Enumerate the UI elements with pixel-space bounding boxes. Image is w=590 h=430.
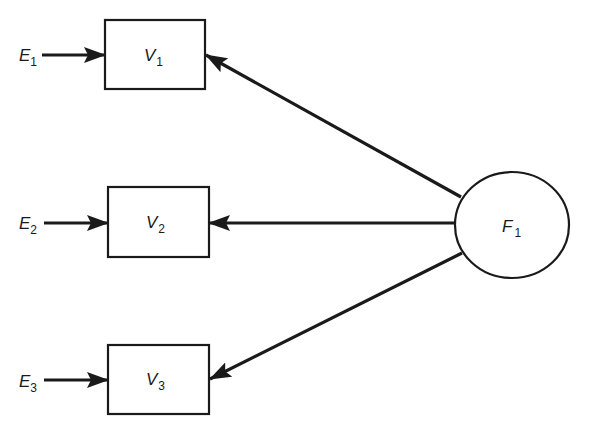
e3-label: E3 [19, 372, 37, 395]
node-v3: V3 [108, 345, 209, 414]
node-v2: V2 [108, 187, 209, 257]
e2-label: E2 [19, 214, 37, 237]
arrow-f1-v3 [210, 253, 462, 379]
node-f1: F1 [455, 172, 569, 278]
node-v1: V1 [105, 20, 205, 89]
e1-label: E1 [19, 46, 37, 69]
arrow-f1-v1 [206, 55, 461, 197]
factor-path-diagram: V1 V2 V3 F1 E1 E2 E3 [0, 0, 590, 430]
